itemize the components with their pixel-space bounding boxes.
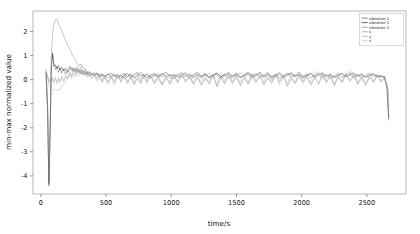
y-tick-label: 2: [23, 28, 27, 36]
legend-label: vibration 1: [369, 17, 389, 21]
legend-label: vibration 3: [369, 26, 390, 30]
x-tick-label: 2000: [293, 199, 310, 207]
line-chart: 05001000150020002500 210-1-2-3-4 time/s …: [0, 0, 420, 234]
y-tick-label: -1: [21, 100, 28, 108]
x-tick-label: 1000: [163, 199, 180, 207]
y-tick-label: -4: [21, 172, 28, 180]
y-tick-label: -2: [21, 124, 28, 132]
legend-label: vibration 2: [369, 21, 389, 25]
y-tick-label: -3: [21, 148, 28, 156]
legend-label: z: [369, 39, 371, 43]
y-tick-label: 1: [23, 52, 27, 60]
x-tick-label: 2500: [358, 199, 375, 207]
x-tick-label: 0: [39, 199, 43, 207]
y-tick-label: 0: [23, 76, 27, 84]
y-axis-label: min-max normalized value: [4, 53, 13, 150]
chart-legend[interactable]: vibration 1vibration 2vibration 3xyz: [360, 14, 404, 46]
x-axis-label: time/s: [208, 219, 231, 228]
chart-figure: 05001000150020002500 210-1-2-3-4 time/s …: [0, 0, 420, 234]
x-tick-label: 500: [100, 199, 113, 207]
figure-background: [0, 0, 420, 234]
x-tick-label: 1500: [228, 199, 245, 207]
